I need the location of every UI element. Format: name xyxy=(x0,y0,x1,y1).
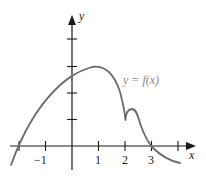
y-axis-arrow-icon xyxy=(68,15,76,25)
x-tick-label-neg1: −1 xyxy=(34,153,47,167)
y-axis-label: y xyxy=(78,9,85,23)
x-axis-label: x xyxy=(188,148,195,162)
graph-canvas: −1 1 2 3 x y y = f(x) xyxy=(0,0,206,179)
x-tick-label-2: 2 xyxy=(122,153,128,167)
function-label: y = f(x) xyxy=(122,73,159,87)
x-tick-label-3: 3 xyxy=(148,153,154,167)
x-tick-label-1: 1 xyxy=(95,153,101,167)
